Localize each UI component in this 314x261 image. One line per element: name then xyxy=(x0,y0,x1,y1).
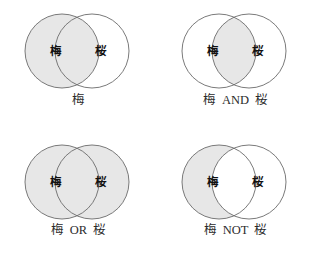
venn-panel-plum: 梅 桜 梅 xyxy=(0,0,157,130)
panel-caption-and: 梅 AND 桜 xyxy=(157,92,314,108)
venn-graphic-not: 梅 桜 xyxy=(157,131,314,232)
venn-graphic-plum: 梅 桜 xyxy=(0,0,157,101)
left-set-label: 梅 xyxy=(207,175,219,189)
left-set-label: 梅 xyxy=(50,175,62,189)
venn-panel-not: 梅 桜 梅 NOT 桜 xyxy=(157,131,314,261)
venn-panel-or: 梅 桜 梅 OR 桜 xyxy=(0,131,157,261)
panel-caption-plum: 梅 xyxy=(0,92,157,108)
left-set-label: 梅 xyxy=(50,44,62,58)
venn-panel-and: 梅 桜 梅 AND 桜 xyxy=(157,0,314,130)
venn-graphic-or: 梅 桜 xyxy=(0,131,157,232)
right-set-label: 桜 xyxy=(95,175,107,189)
right-set-label: 桜 xyxy=(252,175,264,189)
right-set-label: 桜 xyxy=(252,44,264,58)
panel-caption-not: 梅 NOT 桜 xyxy=(157,222,314,238)
panel-caption-or: 梅 OR 桜 xyxy=(0,222,157,238)
left-set-label: 梅 xyxy=(207,44,219,58)
right-set-label: 桜 xyxy=(95,44,107,58)
venn-graphic-and: 梅 桜 xyxy=(157,0,314,101)
venn-diagram-figure: 梅 桜 梅 梅 桜 梅 AND 桜 梅 xyxy=(0,0,314,261)
